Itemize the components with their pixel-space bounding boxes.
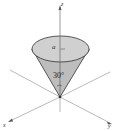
x-arrow-icon [8, 119, 13, 123]
angle-label: 30° [53, 72, 64, 80]
y-axis [60, 97, 110, 123]
x-axis-label: x [3, 122, 6, 128]
cone-diagram [0, 0, 115, 131]
x-axis [10, 97, 60, 121]
z-axis-label: z [61, 1, 63, 7]
radius-label: a [52, 44, 56, 51]
apex-point [59, 96, 62, 99]
y-axis-label: y [108, 123, 111, 129]
